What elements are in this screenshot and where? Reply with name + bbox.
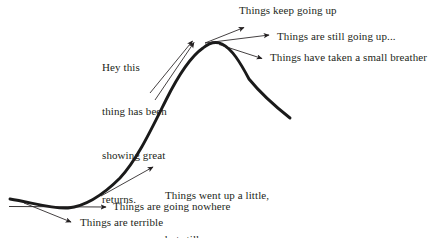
annotation-great-returns-line-2: thing has been bbox=[102, 104, 167, 119]
annotation-keep-going-up: Things keep going up bbox=[239, 4, 337, 18]
annotation-great-returns-line-1: Hey this bbox=[102, 60, 167, 75]
annotation-went-up-a-little: Things went up a little, but still... bbox=[165, 159, 269, 238]
diagram-canvas: Things keep going up Things are still go… bbox=[0, 0, 442, 238]
annotation-went-up-a-little-line-2: but still... bbox=[165, 232, 269, 238]
annotation-great-returns-line-3: showing great bbox=[102, 148, 167, 163]
small-breather-arrow bbox=[219, 45, 262, 59]
annotation-small-breather: Things have taken a small breather bbox=[270, 51, 427, 65]
annotation-going-nowhere: Things are going nowhere bbox=[113, 200, 231, 214]
going-nowhere-arrow bbox=[9, 207, 106, 208]
annotation-terrible: Things are terrible bbox=[80, 216, 163, 230]
annotation-still-going-up: Things are still going up... bbox=[277, 30, 396, 44]
